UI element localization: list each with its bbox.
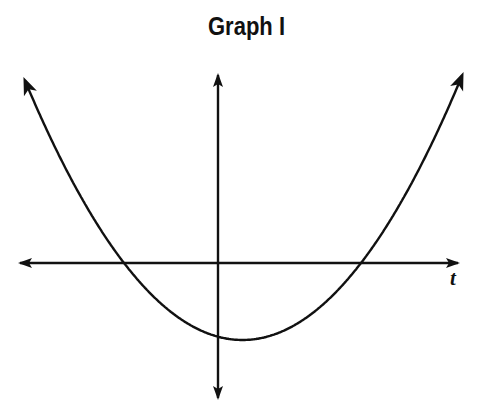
curve-arrowheads [23,72,463,96]
parabola-curve [25,76,462,340]
graph-plot [0,0,493,413]
t-axis-label: t [450,266,456,291]
